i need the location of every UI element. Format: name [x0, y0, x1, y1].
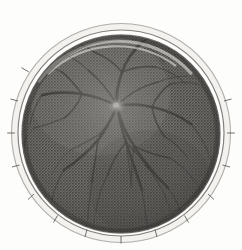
fundus-image: [0, 0, 242, 250]
fundus-plate: Fundus photograph: [0, 0, 242, 250]
